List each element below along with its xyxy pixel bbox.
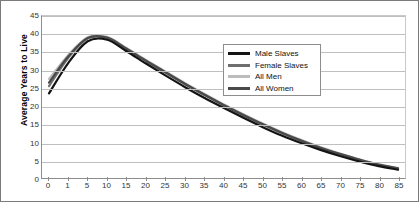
legend-line-swatch [228, 64, 250, 67]
gridline [42, 125, 405, 126]
x-tick-label: 40 [219, 181, 228, 190]
y-tick-label: 45 [13, 11, 39, 20]
x-tick-label: 0 [46, 181, 50, 190]
x-tick-label: 50 [258, 181, 267, 190]
legend-item[interactable]: Male Slaves [228, 48, 320, 60]
gridline [42, 16, 405, 17]
life-expectancy-chart: Average Years to Live 051015202530354045… [0, 0, 419, 202]
chart-legend: Male SlavesFemale SlavesAll MenAll Women [223, 44, 321, 96]
x-tick-label: 80 [375, 181, 384, 190]
y-tick-label: 35 [13, 47, 39, 56]
y-axis-tick-labels: 051015202530354045 [13, 1, 39, 202]
x-tick-label: 35 [200, 181, 209, 190]
gridline [42, 34, 405, 35]
legend-label: All Men [255, 71, 282, 82]
legend-label: Male Slaves [255, 48, 299, 59]
gridline [42, 144, 405, 145]
x-tick-label: 10 [102, 181, 111, 190]
gridline [42, 162, 405, 163]
x-tick-label: 5 [85, 181, 89, 190]
legend-label: Female Slaves [255, 60, 308, 71]
y-tick-label: 20 [13, 102, 39, 111]
x-tick-label: 45 [239, 181, 248, 190]
x-tick-label: 55 [278, 181, 287, 190]
legend-line-swatch [228, 75, 250, 78]
y-tick-label: 0 [13, 175, 39, 184]
x-tick-label: 1 [65, 181, 69, 190]
gridline [42, 107, 405, 108]
x-tick-label: 15 [122, 181, 131, 190]
x-tick-label: 70 [336, 181, 345, 190]
legend-label: All Women [255, 83, 294, 94]
legend-item[interactable]: All Men [228, 71, 320, 83]
x-tick-label: 60 [297, 181, 306, 190]
plot-area [41, 15, 406, 179]
legend-item[interactable]: All Women [228, 83, 320, 95]
y-tick-label: 5 [13, 156, 39, 165]
legend-line-swatch [228, 52, 250, 55]
y-tick-label: 15 [13, 120, 39, 129]
y-tick-label: 10 [13, 138, 39, 147]
x-axis-tick-labels: 01510152025303540455055606570758085 [41, 181, 406, 197]
x-tick-label: 85 [395, 181, 404, 190]
x-tick-label: 25 [161, 181, 170, 190]
x-tick-label: 65 [317, 181, 326, 190]
x-tick-label: 75 [356, 181, 365, 190]
y-tick-label: 25 [13, 83, 39, 92]
series-lines [42, 16, 405, 178]
x-tick-label: 30 [180, 181, 189, 190]
y-tick-label: 30 [13, 65, 39, 74]
legend-line-swatch [228, 87, 250, 90]
legend-item[interactable]: Female Slaves [228, 60, 320, 72]
x-tick-label: 20 [141, 181, 150, 190]
y-tick-label: 40 [13, 29, 39, 38]
